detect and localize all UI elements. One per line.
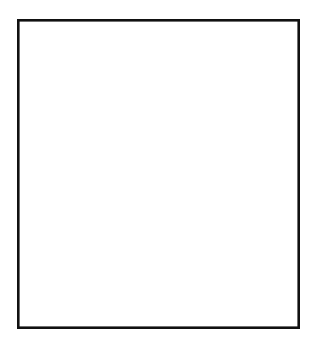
picture-border — [18, 20, 298, 327]
perspective-illustration — [0, 0, 320, 354]
drawing-canvas — [0, 0, 320, 354]
